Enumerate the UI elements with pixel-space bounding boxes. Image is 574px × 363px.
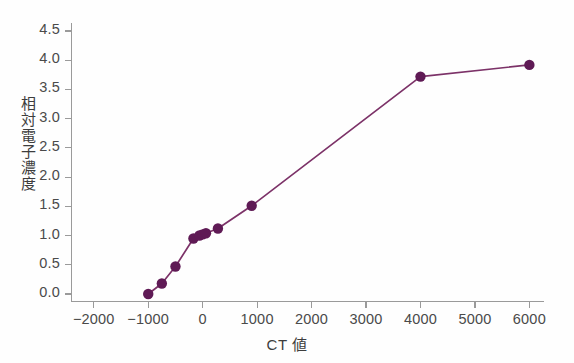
data-point	[213, 223, 223, 233]
data-point	[201, 228, 211, 238]
x-axis-title: CT 値	[0, 333, 574, 354]
data-point	[524, 60, 534, 70]
series-markers	[143, 60, 535, 299]
chart-container: 0.00.51.01.52.02.53.03.54.04.5 −2000−100…	[0, 0, 574, 363]
data-point	[246, 201, 256, 211]
series-line	[148, 65, 529, 294]
data-point	[157, 278, 167, 288]
plot-series-layer	[0, 0, 574, 363]
data-point	[143, 289, 153, 299]
data-point	[170, 261, 180, 271]
data-point	[415, 71, 425, 81]
y-axis-title: 相対電子濃度	[11, 96, 35, 192]
